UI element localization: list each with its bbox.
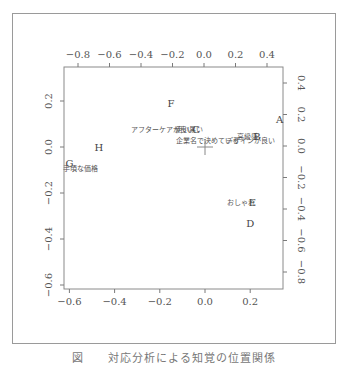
bottom-tick-label: 0.0 (197, 296, 213, 307)
right-tick-label: 0.0 (296, 138, 307, 154)
brand-label: G (65, 158, 73, 169)
brand-label: B (253, 131, 260, 142)
brand-label: E (249, 197, 256, 208)
attribute-labels: アフターケアが良い使い易い企業名で決めているデザインが良い高級感おしゃれ手頃な価… (63, 125, 274, 208)
top-tick-label: 0.2 (228, 49, 244, 60)
left-tick-label: 0.2 (43, 93, 54, 109)
left-axis: 0.20.0−0.2−0.4−0.6 (43, 93, 64, 297)
right-tick-label: 0.2 (296, 107, 307, 123)
brand-labels: ABCDEFGH (65, 98, 284, 229)
left-tick-label: −0.4 (43, 227, 54, 251)
right-tick-label: −0.8 (296, 260, 307, 284)
right-tick-label: −0.6 (296, 228, 307, 252)
bottom-axis: −0.6−0.4−0.20.00.2 (57, 289, 258, 307)
top-tick-label: −0.6 (97, 49, 121, 60)
brand-label: D (246, 218, 254, 229)
top-tick-label: 0.4 (259, 49, 275, 60)
bottom-tick-label: −0.2 (148, 296, 172, 307)
bottom-tick-label: −0.6 (57, 296, 81, 307)
right-tick-label: −0.2 (296, 165, 307, 189)
top-axis: −0.8−0.6−0.4−0.20.00.20.4 (66, 49, 275, 67)
left-tick-label: −0.6 (43, 273, 54, 297)
top-tick-label: −0.4 (129, 49, 153, 60)
figure-caption: 図 対応分析による知覚の位置関係 (0, 349, 348, 365)
top-tick-label: 0.0 (196, 49, 212, 60)
right-axis: 0.40.20.0−0.2−0.4−0.6−0.8 (283, 75, 307, 284)
left-tick-label: −0.2 (43, 181, 54, 205)
brand-label: C (192, 124, 200, 135)
right-tick-label: 0.4 (296, 75, 307, 91)
bottom-tick-label: −0.4 (102, 296, 126, 307)
left-tick-label: 0.0 (43, 139, 54, 155)
right-tick-label: −0.4 (296, 197, 307, 221)
top-tick-label: −0.8 (66, 49, 90, 60)
brand-label: F (168, 98, 175, 109)
brand-label: H (94, 142, 103, 153)
brand-label: A (275, 114, 284, 125)
bottom-tick-label: 0.2 (242, 296, 258, 307)
top-tick-label: −0.2 (160, 49, 184, 60)
